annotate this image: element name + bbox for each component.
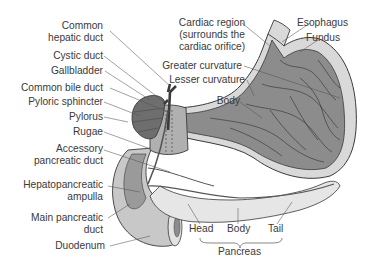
- label-line: Cardiac region: [172, 17, 252, 29]
- pancreas-shape: [150, 181, 340, 222]
- label-cardiac-region: Cardiac region (surrounds the cardiac or…: [172, 17, 252, 53]
- label-pyloric-sphincter: Pyloric sphincter: [28, 96, 103, 108]
- label-fundus: Fundus: [306, 32, 340, 44]
- label-line: hepatic duct: [48, 32, 103, 44]
- label-accessory-pancreatic-duct: Accessory pancreatic duct: [34, 143, 103, 167]
- label-body: Body: [217, 95, 240, 107]
- label-pancreas-tail: Tail: [268, 223, 283, 235]
- label-lesser-curvature: Lesser curvature: [169, 74, 245, 86]
- label-line: Main pancreatic: [31, 212, 103, 224]
- label-esophagus: Esophagus: [297, 17, 348, 29]
- duodenum-cut-lumen: [174, 217, 180, 237]
- accessory-duct-shape: [148, 168, 214, 186]
- label-line: duct: [31, 224, 103, 236]
- label-rugae: Rugae: [73, 126, 103, 138]
- label-line: Accessory: [34, 143, 103, 155]
- label-pancreas-body: Body: [227, 223, 250, 235]
- label-pancreas-head: Head: [189, 223, 213, 235]
- label-line: pancreatic duct: [34, 155, 103, 167]
- label-pylorus: Pylorus: [69, 111, 103, 123]
- label-pancreas: Pancreas: [218, 246, 261, 258]
- label-common-hepatic-duct: Common hepatic duct: [48, 20, 103, 44]
- label-line: Hepatopancreatic: [23, 179, 103, 191]
- label-gallbladder: Gallbladder: [51, 65, 103, 77]
- label-common-bile-duct: Common bile duct: [21, 82, 103, 94]
- label-line: Common: [48, 20, 103, 32]
- label-cystic-duct: Cystic duct: [53, 50, 103, 62]
- label-greater-curvature: Greater curvature: [162, 60, 242, 72]
- label-line: ampulla: [23, 191, 103, 203]
- label-main-pancreatic-duct: Main pancreatic duct: [31, 212, 103, 236]
- label-hepatopancreatic-ampulla: Hepatopancreatic ampulla: [23, 179, 103, 203]
- label-line: (surrounds the: [172, 29, 252, 41]
- label-duodenum: Duodenum: [55, 240, 105, 252]
- label-line: cardiac orifice): [172, 41, 252, 53]
